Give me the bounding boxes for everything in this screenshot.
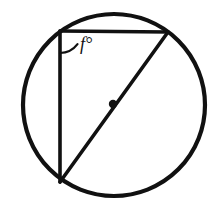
side-top-horizontal-chord — [60, 31, 168, 32]
circle-center-dot — [109, 100, 117, 108]
geometry-canvas: f° — [0, 0, 224, 216]
angle-arc-f — [60, 44, 78, 53]
angle-label-f: f° — [80, 34, 92, 54]
geometry-figure-container: f° — [0, 0, 224, 216]
